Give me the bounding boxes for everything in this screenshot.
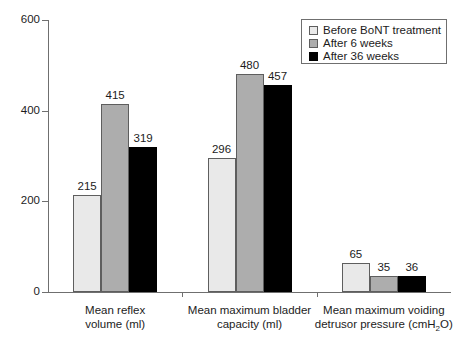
category-label-line: detrusor pressure (cmH2O) — [294, 317, 455, 336]
legend-swatch-icon — [309, 52, 318, 61]
x-axis-group-tick — [182, 292, 183, 297]
bar-3-group-3 — [398, 276, 426, 292]
chart-legend: Before BoNT treatmentAfter 6 weeksAfter … — [301, 19, 447, 64]
y-axis-tick-label: 400 — [0, 105, 40, 117]
bar-value-label: 457 — [258, 71, 298, 83]
legend-label: After 6 weeks — [323, 38, 393, 50]
bar-chart: 0200400600 215415319296480457653536 Mean… — [0, 0, 455, 338]
y-axis-tick — [42, 292, 49, 293]
x-axis-line — [48, 292, 451, 293]
bar-value-label: 36 — [392, 262, 432, 274]
bar-value-label: 415 — [95, 90, 135, 102]
category-label-3: Mean maximum voidingdetrusor pressure (c… — [294, 303, 455, 336]
legend-item-3[interactable]: After 36 weeks — [309, 50, 446, 63]
bar-1-group-2 — [208, 158, 236, 292]
legend-item-2[interactable]: After 6 weeks — [309, 37, 446, 50]
y-axis-tick-label: 200 — [0, 195, 40, 207]
legend-swatch-icon — [309, 26, 318, 35]
bar-2-group-1 — [101, 104, 129, 292]
x-axis-group-tick — [317, 292, 318, 297]
subscript-2: 2 — [436, 324, 440, 333]
bar-2-group-3 — [370, 276, 398, 292]
legend-label: After 36 weeks — [323, 51, 399, 63]
category-label-line: Mean maximum voiding — [294, 303, 455, 317]
y-axis-tick-label: 600 — [0, 14, 40, 26]
bar-2-group-2 — [236, 74, 264, 292]
legend-item-1[interactable]: Before BoNT treatment — [309, 24, 446, 37]
bar-value-label: 319 — [123, 133, 163, 145]
bar-3-group-2 — [264, 85, 292, 292]
legend-label: Before BoNT treatment — [323, 25, 441, 37]
y-axis-tick-label: 0 — [0, 286, 40, 298]
bar-1-group-1 — [73, 195, 101, 292]
bar-value-label: 65 — [336, 249, 376, 261]
bar-3-group-1 — [129, 147, 157, 292]
legend-swatch-icon — [309, 39, 318, 48]
